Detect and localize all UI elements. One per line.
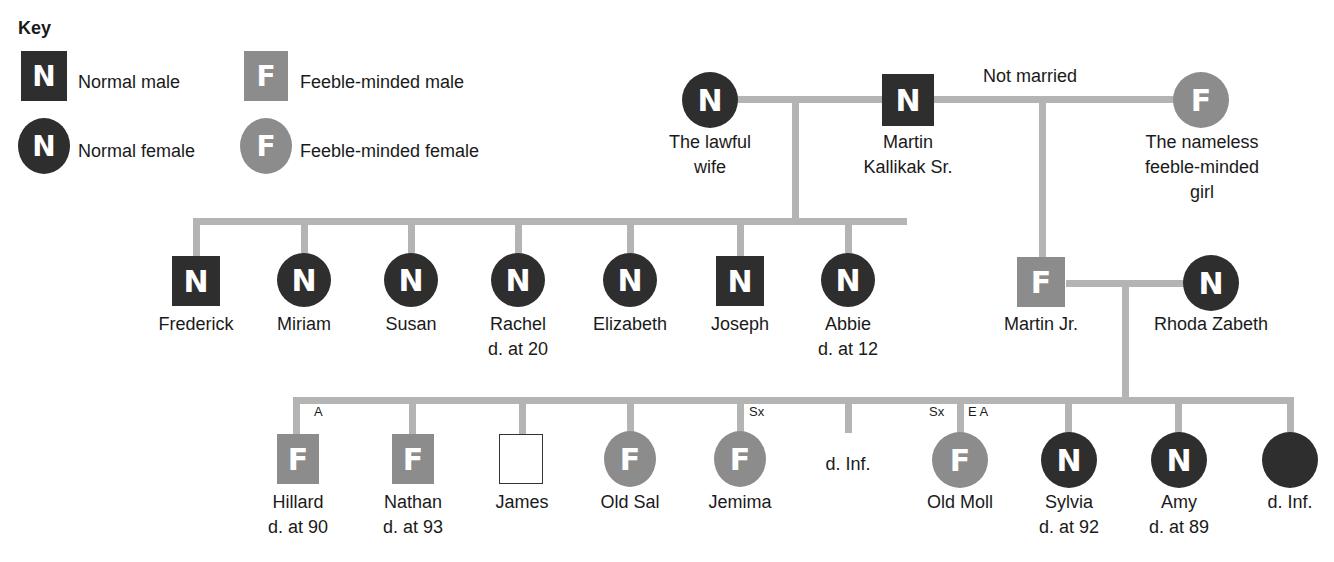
rhoda-label: Rhoda Zabeth — [1154, 312, 1268, 337]
nathan-label: Nathan d. at 93 — [383, 490, 443, 540]
susan-symbol: N — [384, 253, 438, 307]
rachel-label: Rachel d. at 20 — [488, 312, 548, 362]
hillard-tag: A — [314, 405, 323, 419]
marriage-line-gen1 — [735, 96, 1177, 103]
drop-line — [845, 397, 852, 433]
old-moll-tag-left: Sx — [929, 405, 944, 419]
descent-line-martin-jr — [1122, 283, 1129, 403]
martin-jr-symbol: F — [1017, 257, 1065, 307]
old-moll-symbol: F — [932, 432, 988, 488]
drop-line — [845, 218, 852, 256]
martin-sr-symbol: N — [882, 74, 934, 126]
lawful-wife-label: The lawful wife — [669, 130, 751, 180]
feeble-male-key-label: Feeble-minded male — [300, 72, 464, 93]
not-married-label: Not married — [983, 66, 1077, 87]
drop-line — [1065, 397, 1072, 433]
drop-line — [900, 218, 907, 219]
nathan-symbol: F — [392, 434, 434, 484]
frederick-label: Frederick — [158, 312, 233, 337]
sylvia-symbol: N — [1041, 432, 1097, 488]
old-moll-tag-right: E A — [968, 405, 988, 419]
elizabeth-symbol: N — [603, 253, 657, 307]
infant-death-symbol — [1262, 432, 1318, 488]
drop-line — [519, 397, 526, 435]
drop-line — [1287, 397, 1294, 433]
drop-line — [1175, 397, 1182, 433]
abbie-symbol: N — [821, 253, 875, 307]
old-moll-label: Old Moll — [927, 490, 993, 515]
sylvia-label: Sylvia d. at 92 — [1039, 490, 1099, 540]
jemima-label: Jemima — [708, 490, 771, 515]
infant-death-label-2: d. Inf. — [1267, 490, 1312, 515]
joseph-label: Joseph — [711, 312, 769, 337]
descent-line-legitimate — [792, 100, 799, 222]
james-symbol — [499, 434, 543, 484]
drop-line — [293, 397, 300, 435]
sibling-line-gen3 — [293, 397, 1293, 404]
normal-female-key-symbol: N — [18, 118, 70, 174]
feeble-female-key-symbol: F — [240, 118, 292, 174]
hillard-label: Hillard d. at 90 — [268, 490, 328, 540]
miriam-label: Miriam — [277, 312, 331, 337]
frederick-symbol: N — [172, 256, 220, 306]
descent-line-illegitimate — [1039, 100, 1046, 260]
amy-label: Amy d. at 89 — [1149, 490, 1209, 540]
key-title: Key — [18, 18, 51, 39]
drop-line — [408, 218, 415, 256]
jemima-symbol: F — [714, 431, 766, 487]
drop-line — [627, 397, 634, 433]
martin-jr-label: Martin Jr. — [1004, 312, 1078, 337]
old-sal-label: Old Sal — [600, 490, 659, 515]
drop-line — [957, 397, 964, 433]
amy-symbol: N — [1151, 432, 1207, 488]
susan-label: Susan — [385, 312, 436, 337]
rachel-symbol: N — [491, 253, 545, 307]
nameless-girl-symbol: F — [1173, 72, 1229, 128]
infant-death-label-1: d. Inf. — [825, 452, 870, 477]
drop-line — [301, 218, 308, 256]
nameless-girl-label: The nameless feeble-minded girl — [1145, 130, 1259, 205]
normal-male-key-symbol: N — [21, 51, 67, 101]
feeble-male-key-symbol: F — [244, 51, 288, 101]
normal-male-key-label: Normal male — [78, 72, 180, 93]
hillard-symbol: F — [277, 434, 319, 484]
james-label: James — [495, 490, 548, 515]
lawful-wife-symbol: N — [682, 72, 738, 128]
normal-female-key-label: Normal female — [78, 141, 195, 162]
drop-line — [737, 397, 744, 433]
drop-line — [515, 218, 522, 256]
drop-line — [193, 218, 200, 258]
joseph-symbol: N — [716, 256, 764, 306]
drop-line — [627, 218, 634, 256]
abbie-label: Abbie d. at 12 — [818, 312, 878, 362]
miriam-symbol: N — [277, 253, 331, 307]
old-sal-symbol: F — [604, 431, 656, 487]
feeble-female-key-label: Feeble-minded female — [300, 141, 479, 162]
drop-line — [409, 397, 416, 435]
jemima-tag: Sx — [749, 405, 764, 419]
elizabeth-label: Elizabeth — [593, 312, 667, 337]
drop-line — [737, 218, 744, 258]
martin-sr-label: Martin Kallikak Sr. — [863, 130, 952, 180]
rhoda-symbol: N — [1183, 255, 1239, 311]
